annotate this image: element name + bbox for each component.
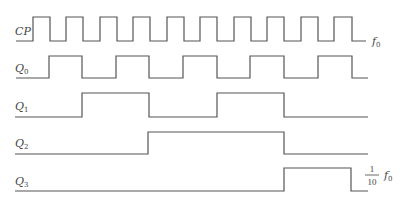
frequency-label-f0: f0 xyxy=(371,35,381,49)
signal-label-q3: Q3 xyxy=(15,175,29,189)
waveform-q0 xyxy=(16,56,368,78)
waveform-q2 xyxy=(15,132,368,154)
timing-diagram: CP f0 Q0 Q1 Q2 Q3 1 10 f0 xyxy=(0,0,407,204)
signal-cp: CP f0 xyxy=(15,17,381,49)
fraction-denominator: 10 xyxy=(368,177,378,187)
frequency-label-tenth-f0: 1 10 f0 xyxy=(365,164,393,187)
signal-q0: Q0 xyxy=(15,56,368,78)
frequency-symbol: f0 xyxy=(383,169,393,183)
signal-q3: Q3 1 10 f0 xyxy=(15,164,393,191)
signal-label-q1: Q1 xyxy=(15,100,29,114)
fraction-numerator: 1 xyxy=(370,164,375,174)
signal-label-q2: Q2 xyxy=(15,137,29,151)
signal-label-q0: Q0 xyxy=(15,62,29,76)
signal-q1: Q1 xyxy=(15,93,368,117)
signal-label-cp: CP xyxy=(15,25,31,38)
waveform-q1 xyxy=(15,93,368,117)
signal-q2: Q2 xyxy=(15,132,368,154)
waveform-q3 xyxy=(15,168,368,191)
waveform-cp xyxy=(16,17,366,41)
